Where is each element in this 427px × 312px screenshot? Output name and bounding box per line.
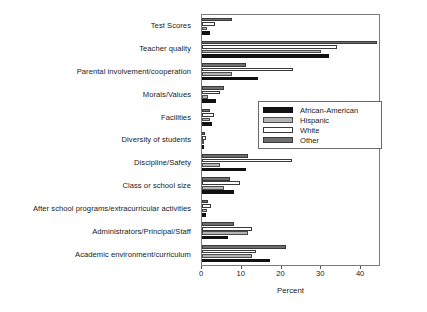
bar-group	[202, 220, 379, 243]
bar	[202, 99, 216, 103]
legend-label: Other	[300, 136, 319, 145]
bar	[202, 250, 256, 254]
bar-group	[202, 242, 379, 265]
category-label: Facilities	[0, 106, 196, 129]
legend-item: Other	[263, 135, 377, 145]
bar	[202, 118, 210, 122]
bar	[202, 122, 212, 126]
bar-group	[202, 15, 379, 38]
bar	[202, 91, 220, 95]
bar	[202, 145, 204, 149]
category-label: Parental involvement/cooperation	[0, 60, 196, 83]
bar	[202, 190, 234, 194]
bar	[202, 259, 270, 263]
bar	[202, 186, 224, 190]
bar	[202, 168, 246, 172]
legend-item: African-American	[263, 105, 377, 115]
legend-swatch-icon	[263, 137, 293, 144]
category-label: Diversity of students	[0, 129, 196, 152]
bar	[202, 68, 293, 72]
bar	[202, 22, 215, 26]
bar	[202, 136, 206, 140]
bar	[202, 113, 214, 117]
bar	[202, 236, 228, 240]
bar	[202, 45, 337, 49]
category-label: Morals/Values	[0, 83, 196, 106]
legend-swatch-icon	[263, 127, 293, 134]
category-label: After school programs/extracurricular ac…	[0, 197, 196, 220]
x-tick-label: 0	[199, 269, 203, 278]
legend-label: African-American	[300, 106, 358, 115]
x-tick-label: 10	[237, 269, 245, 278]
bar	[202, 209, 207, 213]
bar-group	[202, 60, 379, 83]
bar	[202, 177, 230, 181]
bar-group	[202, 174, 379, 197]
bar	[202, 200, 208, 204]
bar	[202, 227, 252, 231]
legend-swatch-icon	[263, 117, 293, 124]
x-tick-label: 40	[356, 269, 364, 278]
bar	[202, 213, 206, 217]
legend-swatch-icon	[263, 107, 293, 114]
x-tick-label: 20	[276, 269, 284, 278]
legend-label: White	[300, 126, 319, 135]
bar	[202, 18, 232, 22]
bar	[202, 231, 248, 235]
legend: African-American Hispanic White Other	[258, 101, 382, 149]
category-axis-labels: Test Scores Teacher quality Parental inv…	[0, 14, 196, 266]
category-label: Teacher quality	[0, 37, 196, 60]
legend-item: Hispanic	[263, 115, 377, 125]
bar	[202, 54, 329, 58]
bar	[202, 140, 204, 144]
legend-item: White	[263, 125, 377, 135]
bar	[202, 254, 252, 258]
bar	[202, 86, 224, 90]
x-axis-title: Percent	[201, 286, 380, 295]
bar	[202, 181, 240, 185]
bar-chart: Test Scores Teacher quality Parental inv…	[0, 0, 427, 312]
bar	[202, 154, 248, 158]
category-label: Academic environment/curriculum	[0, 243, 196, 266]
bar	[202, 63, 246, 67]
category-label: Class or school size	[0, 174, 196, 197]
bar	[202, 27, 207, 31]
x-tick-label: 30	[316, 269, 324, 278]
bar	[202, 41, 377, 45]
bar	[202, 31, 210, 35]
bar	[202, 159, 292, 163]
bar	[202, 163, 220, 167]
bar-group	[202, 38, 379, 61]
bar-group	[202, 197, 379, 220]
x-axis-ticks: 010203040	[201, 266, 380, 274]
bar	[202, 109, 210, 113]
bar	[202, 222, 234, 226]
bar	[202, 72, 232, 76]
category-label: Test Scores	[0, 14, 196, 37]
legend-label: Hispanic	[300, 116, 329, 125]
category-label: Administrators/Principal/Staff	[0, 220, 196, 243]
bar	[202, 95, 208, 99]
category-label: Discipline/Safety	[0, 151, 196, 174]
bar	[202, 204, 211, 208]
bar	[202, 132, 205, 136]
bar	[202, 50, 321, 54]
bar-group	[202, 151, 379, 174]
bar	[202, 245, 286, 249]
bar	[202, 77, 258, 81]
